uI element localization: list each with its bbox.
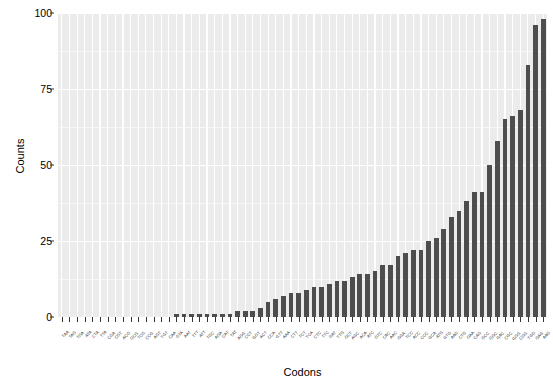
bar <box>464 201 469 317</box>
x-axis-tick-mark <box>100 317 101 322</box>
x-axis-tick-mark <box>222 317 223 322</box>
x-axis-tick-mark <box>421 317 422 322</box>
x-axis-tick-mark <box>436 317 437 322</box>
bar <box>510 116 515 317</box>
x-axis-tick-mark <box>146 317 147 322</box>
gridline-major-x <box>168 13 169 317</box>
gridline-major-x <box>191 13 192 317</box>
y-axis-tick-label: 25 <box>6 235 52 247</box>
gridline-major-x <box>176 13 177 317</box>
gridline-major-x <box>199 13 200 317</box>
gridline-major-x <box>206 13 207 317</box>
x-axis-tick-mark <box>337 317 338 322</box>
x-axis-tick-mark <box>390 317 391 322</box>
gridline-major-x <box>214 13 215 317</box>
gridline-major-x <box>130 13 131 317</box>
gridline-major-x <box>138 13 139 317</box>
x-axis-tick-label: AAG <box>542 330 552 340</box>
x-axis-tick-mark <box>314 317 315 322</box>
bar <box>457 211 462 317</box>
gridline-major-x <box>359 13 360 317</box>
x-axis-tick-mark <box>77 317 78 322</box>
x-axis-tick-mark <box>375 317 376 322</box>
gridline-major-x <box>306 13 307 317</box>
gridline-major-x <box>321 13 322 317</box>
gridline-major-x <box>367 13 368 317</box>
y-axis-tick-label: 0 <box>6 311 52 323</box>
bar <box>335 281 340 317</box>
bar <box>441 229 446 317</box>
gridline-major-x <box>329 13 330 317</box>
x-axis-tick-mark <box>543 317 544 322</box>
bar <box>449 217 454 317</box>
x-axis-tick-mark <box>283 317 284 322</box>
x-axis-tick-mark <box>429 317 430 322</box>
x-axis-tick-mark <box>184 317 185 322</box>
x-axis-tick-mark <box>528 317 529 322</box>
bar <box>472 192 477 317</box>
bar <box>526 65 531 317</box>
x-axis-tick-mark <box>322 317 323 322</box>
bar <box>503 119 508 317</box>
bar <box>304 290 309 317</box>
x-axis-tick-mark <box>406 317 407 322</box>
x-axis-tick-mark <box>306 317 307 322</box>
bar <box>342 281 347 317</box>
chart-root: 0255075100 Counts TAATAGTGAATACTATTACGAC… <box>0 0 553 387</box>
bar <box>327 284 332 317</box>
x-axis-tick-mark <box>291 317 292 322</box>
y-axis-tick-mark <box>50 241 54 242</box>
bar <box>487 165 492 317</box>
x-axis-tick-mark <box>169 317 170 322</box>
x-axis-tick-labels: TAATAGTGAATACTATTACGACGTACGGCGTCGCCGAGTT… <box>58 324 547 364</box>
bar <box>403 253 408 317</box>
bar <box>426 241 431 317</box>
y-axis-tick-mark <box>50 165 54 166</box>
bar <box>434 238 439 317</box>
x-axis-tick-mark <box>207 317 208 322</box>
gridline-major-x <box>298 13 299 317</box>
x-axis-tick-mark <box>230 317 231 322</box>
bar <box>380 265 385 317</box>
x-axis-tick-mark <box>154 317 155 322</box>
gridline-major-x <box>145 13 146 317</box>
gridline-major-x <box>107 13 108 317</box>
y-axis-tick-label: 100 <box>6 7 52 19</box>
x-axis-tick-mark <box>138 317 139 322</box>
x-axis-tick-mark <box>352 317 353 322</box>
x-axis-tick-mark <box>467 317 468 322</box>
gridline-major-x <box>84 13 85 317</box>
x-axis-tick-mark <box>192 317 193 322</box>
y-axis-tick-label: 75 <box>6 83 52 95</box>
x-axis-tick-mark <box>459 317 460 322</box>
x-axis-tick-mark <box>268 317 269 322</box>
x-axis-tick-mark <box>536 317 537 322</box>
gridline-major-x <box>313 13 314 317</box>
x-axis-tick-mark <box>62 317 63 322</box>
bar <box>411 250 416 317</box>
gridline-major-x <box>283 13 284 317</box>
x-axis-tick-mark <box>398 317 399 322</box>
y-axis-tick-mark <box>50 13 54 14</box>
y-axis-tick-mark <box>50 317 54 318</box>
x-axis-tick-mark <box>520 317 521 322</box>
x-axis-tick-mark <box>115 317 116 322</box>
x-axis-tick-mark <box>245 317 246 322</box>
gridline-major-x <box>237 13 238 317</box>
x-axis-tick-mark <box>215 317 216 322</box>
x-axis-tick-mark <box>513 317 514 322</box>
bar <box>296 293 301 317</box>
y-axis-title: Counts <box>14 116 26 196</box>
x-axis-tick-mark <box>444 317 445 322</box>
gridline-major-x <box>252 13 253 317</box>
gridline-major-x <box>69 13 70 317</box>
x-axis-tick-mark <box>85 317 86 322</box>
x-axis-tick-mark <box>367 317 368 322</box>
bar <box>365 274 370 317</box>
gridline-major-x <box>153 13 154 317</box>
x-axis-tick-mark <box>474 317 475 322</box>
bar <box>518 110 523 317</box>
x-axis-tick-mark <box>413 317 414 322</box>
x-axis-tick-mark <box>238 317 239 322</box>
x-axis-tick-mark <box>497 317 498 322</box>
